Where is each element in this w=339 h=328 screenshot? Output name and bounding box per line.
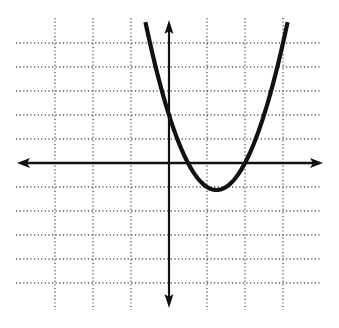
coordinate-plane (0, 0, 339, 328)
parabola-graph (0, 0, 339, 328)
parabola-curve (145, 22, 287, 190)
parabola-line (145, 22, 287, 190)
